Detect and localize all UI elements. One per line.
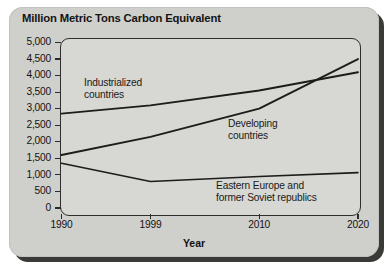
y-axis-tick-label: 5,000 [0, 36, 51, 47]
y-axis-tick-label: 4,000 [0, 69, 51, 80]
y-axis-tick [55, 92, 61, 93]
chart-title: Million Metric Tons Carbon Equivalent [22, 12, 221, 24]
series-label-line-2: countries [84, 89, 142, 101]
y-axis-tick [55, 108, 61, 109]
y-axis-tick [55, 174, 61, 175]
chart-figure: Million Metric Tons Carbon Equivalent 05… [0, 0, 388, 272]
series-label-line-1: Industrialized [84, 77, 142, 89]
y-axis-tick [55, 207, 61, 208]
series-label-line-2: countries [228, 130, 277, 142]
y-axis-tick-label: 2,000 [0, 135, 51, 146]
series-label-line-1: Eastern Europe and [216, 180, 317, 192]
x-axis-tick-label: 2010 [248, 219, 270, 230]
y-axis-tick [55, 158, 61, 159]
y-axis-tick-label: 3,500 [0, 86, 51, 97]
y-axis-tick-label: 1,000 [0, 169, 51, 180]
x-axis-tick-label: 1999 [140, 219, 162, 230]
x-axis-title: Year [0, 237, 388, 249]
y-axis-tick-label: 1,500 [0, 152, 51, 163]
y-axis-tick [55, 58, 61, 59]
y-axis-tick [55, 75, 61, 76]
y-axis-tick-label: 2,500 [0, 119, 51, 130]
y-axis-tick [55, 191, 61, 192]
y-axis-tick-label: 500 [0, 185, 51, 196]
series-label-developing-countries: Developing countries [228, 118, 277, 142]
series-label-eastern-europe-former-soviet-republics: Eastern Europe and former Soviet republi… [216, 180, 317, 204]
y-axis-tick-label: 4,500 [0, 53, 51, 64]
y-axis-tick-label: 0 [0, 202, 51, 213]
x-axis-tick-label: 2020 [347, 219, 369, 230]
series-label-industrialized-countries: Industrialized countries [84, 77, 142, 101]
x-axis-tick-label: 1990 [51, 219, 73, 230]
series-label-line-1: Developing [228, 118, 277, 130]
y-axis-tick [55, 125, 61, 126]
y-axis-tick [55, 141, 61, 142]
y-axis-tick-label: 3,000 [0, 102, 51, 113]
series-label-line-2: former Soviet republics [216, 192, 317, 204]
y-axis-tick [55, 42, 61, 43]
